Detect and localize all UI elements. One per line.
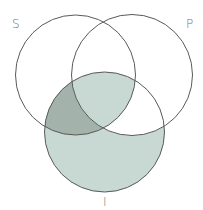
label-s: S [12,18,20,30]
venn-diagram [0,0,203,210]
label-i: I [103,196,107,208]
label-p: P [186,18,193,30]
